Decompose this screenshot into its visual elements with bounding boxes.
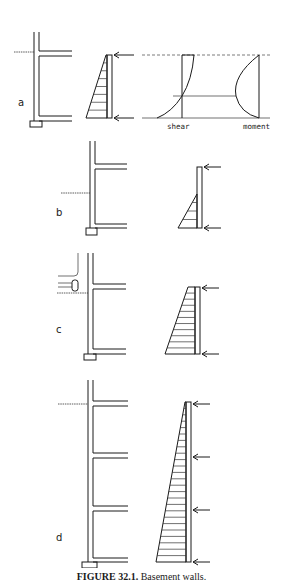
footing: [30, 121, 42, 127]
wall-strip: [195, 287, 200, 354]
panel-label-c: c: [56, 324, 62, 335]
panel-label-d: d: [56, 532, 62, 543]
wall-strip: [197, 167, 202, 228]
figure-title: Basement walls.: [141, 571, 207, 582]
figure-number: FIGURE 32.1.: [77, 571, 138, 582]
shear-moment-diagrams: shear moment: [142, 55, 270, 131]
pressure-diagram: [156, 402, 186, 562]
wall-strip: [107, 55, 112, 118]
pressure-diagram: [165, 287, 195, 354]
panel-label-b: b: [56, 207, 62, 218]
shear-label: shear: [167, 122, 190, 131]
wheel-icon: [72, 280, 78, 291]
moment-label: moment: [243, 122, 270, 131]
surcharge-outline: [58, 253, 78, 276]
shear-curve: [157, 55, 194, 118]
footing: [86, 228, 97, 235]
panel-label-a: a: [18, 97, 24, 108]
panels-layer: abcd: [14, 32, 221, 568]
panel-a: a: [14, 32, 134, 127]
figure-caption: FIGURE 32.1. Basement walls.: [0, 571, 283, 582]
basement-walls-figure: abcd shear moment: [0, 0, 283, 568]
panel-d: d: [56, 380, 210, 568]
moment-curve: [235, 55, 259, 118]
wall-strip: [186, 402, 191, 562]
footing: [84, 354, 96, 360]
panel-b: b: [56, 141, 221, 235]
panel-c: c: [56, 253, 219, 360]
footing: [82, 562, 97, 568]
